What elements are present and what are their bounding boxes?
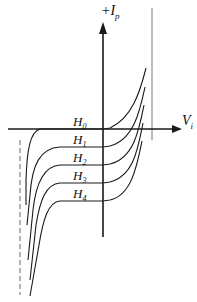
curve-h1 — [27, 87, 145, 225]
diagram-canvas: +Ip Vi H0 H1 H2 H3 H4 — [0, 0, 197, 302]
curve-label-h0: H0 — [72, 114, 86, 131]
curve-label-h3: H3 — [72, 168, 86, 185]
x-axis-arrow-icon — [172, 125, 182, 133]
y-axis-label: +Ip — [101, 3, 120, 21]
curve-label-h4: H4 — [72, 186, 86, 203]
curve-label-h1: H1 — [72, 132, 86, 149]
x-axis-label: Vi — [182, 113, 194, 131]
curve-label-h2: H2 — [72, 150, 86, 167]
y-axis-arrow-icon — [99, 22, 107, 34]
